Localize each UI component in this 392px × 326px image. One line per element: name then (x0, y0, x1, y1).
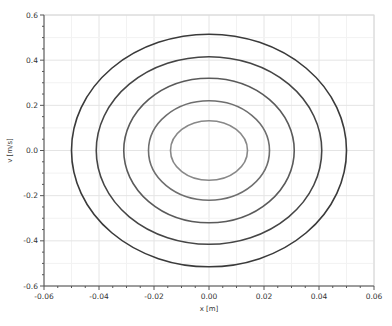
x-tick-label: 0.00 (201, 292, 218, 301)
x-tick-label: -0.04 (89, 292, 109, 301)
x-tick-label: 0.04 (311, 292, 328, 301)
y-tick-label: -0.4 (23, 236, 38, 245)
y-axis: 0.60.40.20.0-0.2-0.4-0.6 (23, 11, 44, 291)
y-axis-label: v [m/s] (6, 138, 14, 163)
y-tick-label: -0.6 (23, 282, 38, 291)
y-tick-label: -0.2 (23, 191, 38, 200)
grid (44, 15, 374, 286)
y-tick-label: 0.6 (26, 11, 38, 20)
x-tick-label: 0.06 (366, 292, 383, 301)
x-axis: -0.06-0.04-0.020.000.020.040.06 (34, 286, 382, 301)
x-tick-label: -0.06 (34, 292, 54, 301)
y-tick-label: 0.0 (26, 146, 38, 155)
x-tick-label: -0.02 (144, 292, 164, 301)
y-tick-label: 0.2 (26, 101, 38, 110)
x-axis-label: x [m] (200, 305, 219, 313)
phase-portrait-chart: 0.60.40.20.0-0.2-0.4-0.6 -0.06-0.04-0.02… (0, 0, 392, 326)
x-tick-label: 0.02 (256, 292, 273, 301)
y-tick-label: 0.4 (26, 56, 38, 65)
